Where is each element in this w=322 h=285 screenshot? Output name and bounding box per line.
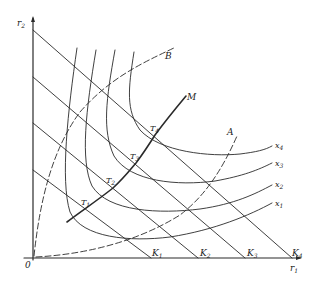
isoquant-diagram: T1 T2 T3 T4 x1 x2 x3 x4 K1 K2 K3 K4 M A … — [0, 0, 322, 285]
ridge-label-b: B — [164, 51, 172, 61]
tangency-label-t2: T2 — [106, 176, 115, 186]
budget-label-k1: K1 — [151, 248, 163, 259]
budget-line-k3 — [33, 77, 245, 258]
budget-line-k1 — [33, 170, 151, 258]
isoquant-label-x3: x3 — [275, 159, 284, 169]
y-axis-label: r2 — [17, 18, 25, 29]
isoquant-x4 — [129, 52, 272, 155]
x-axis-label: r1 — [290, 263, 298, 274]
tangency-label-t3: T3 — [130, 152, 139, 162]
budget-line-k4 — [33, 30, 292, 258]
y-axis-arrow-icon — [31, 16, 35, 22]
isoquant-label-x4: x4 — [275, 141, 284, 151]
budget-label-k4: K4 — [291, 248, 303, 259]
tangency-label-t4: T4 — [150, 124, 159, 134]
isoquant-x1 — [65, 48, 272, 239]
budget-label-k2: K2 — [199, 248, 211, 259]
budget-line-k2 — [33, 123, 198, 258]
isoquant-label-x2: x2 — [275, 180, 284, 190]
origin-label: 0 — [25, 260, 31, 270]
isoquant-label-x1: x1 — [275, 199, 283, 209]
tangency-label-t1: T1 — [81, 198, 90, 208]
expansion-path-label: M — [186, 92, 197, 102]
ridge-line-b — [34, 47, 176, 256]
budget-label-k3: K3 — [246, 248, 258, 259]
ridge-label-a: A — [226, 127, 234, 137]
